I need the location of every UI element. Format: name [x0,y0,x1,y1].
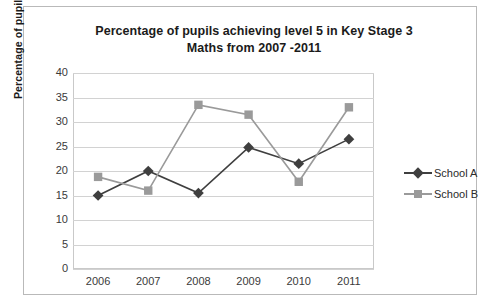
y-axis-title: Percentage of pupils [12,0,24,99]
data-point-marker [94,173,102,181]
gridline [73,269,374,270]
data-point-marker [93,190,104,201]
data-point-marker [295,178,303,186]
y-axis-tick-label: 35 [28,91,68,103]
x-axis-tick-label: 2006 [71,275,125,287]
plot-area-wrapper: 0510152025303540 20062007200820092010201… [73,73,374,269]
legend-key-icon [404,167,432,179]
x-axis-tick-label: 2010 [272,275,326,287]
chart-title: Percentage of pupils achieving level 5 i… [64,23,444,57]
y-axis-tick-label: 15 [28,189,68,201]
data-point-marker [344,134,355,145]
data-point-marker [144,186,152,194]
y-axis-tick-label: 5 [28,238,68,250]
legend-label: School B [434,188,478,200]
data-point-marker [194,101,202,109]
y-axis-tick-label: 40 [28,66,68,78]
data-point-marker [293,158,304,169]
x-axis-tick-label: 2011 [322,275,376,287]
y-axis-tick-label: 20 [28,164,68,176]
square-marker-icon [414,190,422,198]
y-axis-tick-label: 10 [28,213,68,225]
chart-card: Percentage of pupils achieving level 5 i… [23,6,477,295]
y-axis-tick-label: 25 [28,140,68,152]
y-axis-tick-label: 30 [28,115,68,127]
chart-title-line-1: Percentage of pupils achieving level 5 i… [64,23,444,40]
x-axis-tick-label: 2009 [222,275,276,287]
data-point-marker [345,103,353,111]
y-axis-tick-label: 0 [28,262,68,274]
legend-label: School A [434,167,477,179]
legend-item[interactable]: School B [404,183,488,204]
chart-title-line-2: Maths from 2007 -2011 [64,40,444,57]
data-point-marker [143,166,154,177]
x-axis-tick-label: 2008 [171,275,225,287]
diamond-marker-icon [412,167,423,178]
chart-legend: School ASchool B [404,162,488,204]
series-plot [73,73,374,269]
legend-key-icon [404,188,432,200]
data-point-marker [244,110,252,118]
legend-item[interactable]: School A [404,162,488,183]
x-axis-tick-label: 2007 [121,275,175,287]
